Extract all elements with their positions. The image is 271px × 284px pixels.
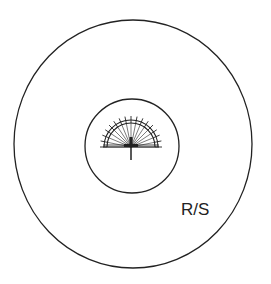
diagram-figure [0,0,271,284]
diagram-canvas: R/S [0,0,271,284]
protractor-icon [100,116,162,160]
region-label: R/S [181,200,209,220]
